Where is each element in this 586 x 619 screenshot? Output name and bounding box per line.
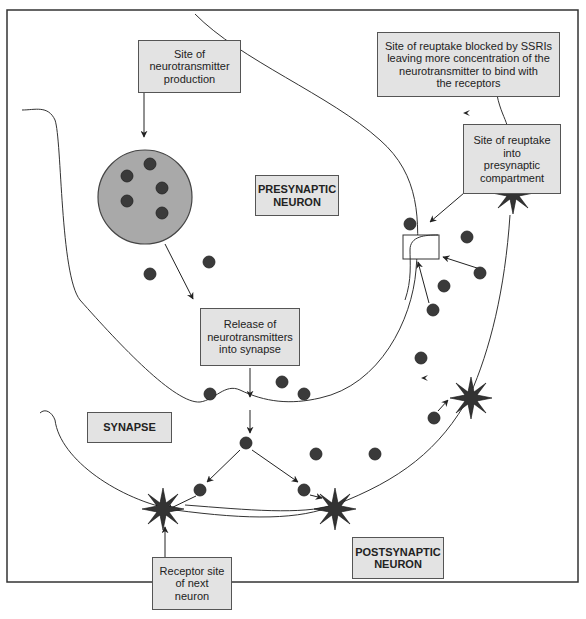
label-release-into-synapse: Release of neurotransmitters into synaps… — [200, 308, 300, 366]
label-reuptake-site: Site of reuptake into presynaptic compar… — [463, 124, 561, 194]
postsynaptic-membrane-left — [185, 505, 335, 511]
receptor-star-icon — [314, 488, 356, 530]
label-postsynaptic-neuron: POSTSYNAPTIC NEURON — [352, 537, 444, 579]
label-synapse: SYNAPSE — [87, 412, 172, 443]
arrowhead-marker — [463, 110, 470, 116]
label-neurotransmitter-production: Site of neurotransmitter production — [138, 40, 241, 93]
ssri-pointer-line — [497, 95, 507, 125]
label-ssri-blocked-reuptake: Site of reuptake blocked by SSRIs leavin… — [377, 32, 560, 97]
label-receptor-site: Receptor site of next neuron — [152, 557, 232, 610]
receptor-star-icon — [450, 377, 492, 419]
reuptake-transporter-box — [403, 235, 439, 259]
label-presynaptic-neuron: PRESYNAPTIC NEURON — [255, 175, 339, 216]
neurotransmitter-molecules — [144, 218, 486, 496]
receptor-star-icon — [142, 488, 184, 530]
arrowhead-marker — [421, 375, 428, 381]
